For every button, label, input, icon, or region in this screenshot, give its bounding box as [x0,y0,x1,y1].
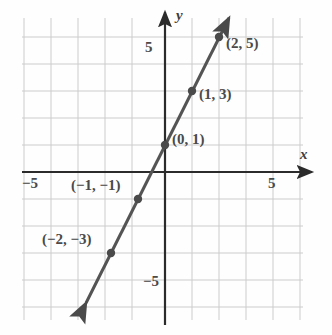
point-label-neg1-neg1: (−1, −1) [71,178,121,193]
data-point-marker [215,33,223,41]
y-axis-label: y [176,8,183,23]
coordinate-plane-graph: (−2, −3) (−1, −1) (0, 1) (1, 3) (2, 5) y… [0,0,332,335]
y-tick-label-5: 5 [145,40,153,55]
x-tick-label-neg5: −5 [22,176,38,191]
plotted-line [86,18,229,303]
x-tick-label-5: 5 [268,176,276,191]
data-point-marker [107,249,115,257]
grid-lines [22,18,303,320]
point-label-1-3: (1, 3) [199,87,232,102]
data-point-marker [161,141,169,149]
point-label-0-1: (0, 1) [172,132,205,147]
graph-canvas [0,0,332,335]
data-point-marker [134,195,142,203]
point-label-neg2-neg3: (−2, −3) [42,232,92,247]
point-label-2-5: (2, 5) [226,36,259,51]
data-point-marker [188,87,196,95]
x-axis-label: x [300,147,308,162]
y-tick-label-neg5: −5 [143,274,159,289]
